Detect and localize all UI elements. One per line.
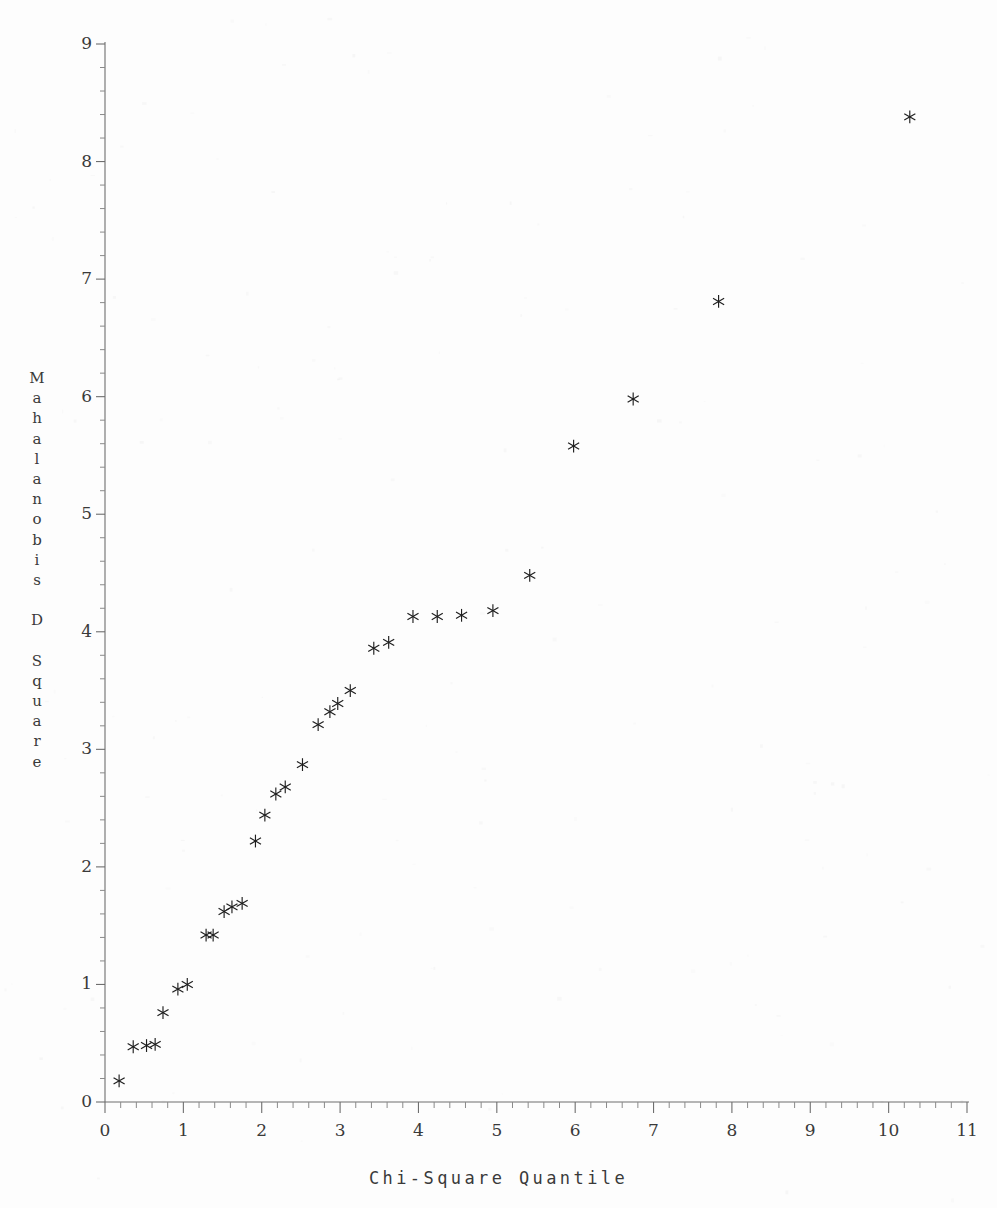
x-tick-label: 2 (247, 1120, 277, 1140)
y-tick-label: 4 (62, 621, 92, 641)
y-axis-title-char: u (24, 691, 50, 711)
y-axis-title-char: n (24, 489, 50, 509)
data-point-marker (219, 905, 230, 918)
data-point-marker (432, 610, 443, 623)
data-point-marker (383, 636, 394, 649)
y-axis-title-char: e (24, 752, 50, 772)
y-axis-title-char: q (24, 671, 50, 691)
y-axis-title-char: l (24, 449, 50, 469)
data-point-marker (259, 809, 270, 822)
data-point-marker (182, 978, 193, 991)
x-tick-label: 5 (482, 1120, 512, 1140)
x-tick-label: 7 (639, 1120, 669, 1140)
y-axis-title-char: a (24, 469, 50, 489)
data-point-marker (114, 1074, 125, 1087)
data-point-marker (487, 604, 498, 617)
data-point-marker (237, 897, 248, 910)
y-tick-label: 0 (62, 1091, 92, 1111)
data-point-marker (332, 697, 343, 710)
y-axis-title-char: h (24, 408, 50, 428)
y-axis-title-char (24, 590, 50, 610)
y-axis-title-char: o (24, 509, 50, 529)
y-axis-title: Mahalanobis D Square (24, 368, 50, 772)
y-tick-label: 8 (62, 151, 92, 171)
y-tick-label: 5 (62, 503, 92, 523)
x-axis-title: Chi-Square Quantile (0, 1168, 997, 1188)
data-point-marker (208, 929, 219, 942)
y-axis-title-char (24, 630, 50, 650)
data-point-marker (456, 609, 467, 622)
data-point-marker (904, 110, 915, 123)
y-tick-label: 9 (62, 33, 92, 53)
data-point-marker (297, 758, 308, 771)
data-point-marker (226, 900, 237, 913)
x-tick-label: 6 (560, 1120, 590, 1140)
y-axis-title-char: D (24, 610, 50, 630)
data-point-marker (407, 610, 418, 623)
y-tick-label: 2 (62, 856, 92, 876)
chart-plot-area: Mahalanobis D Square Chi-Square Quantile… (0, 0, 997, 1208)
data-point-marker (250, 835, 261, 848)
x-tick-label: 10 (874, 1120, 904, 1140)
y-axis-title-char: M (24, 368, 50, 388)
data-point-marker (524, 569, 535, 582)
x-tick-label: 0 (90, 1120, 120, 1140)
y-axis-title-char: b (24, 530, 50, 550)
y-axis-title-char: a (24, 388, 50, 408)
y-axis-title-char: S (24, 651, 50, 671)
y-tick-label: 3 (62, 738, 92, 758)
y-axis-title-char: i (24, 550, 50, 570)
data-point-marker (201, 929, 212, 942)
y-axis-title-char: s (24, 570, 50, 590)
data-point-marker (157, 1006, 168, 1019)
x-tick-label: 11 (952, 1120, 982, 1140)
data-point-marker (368, 642, 379, 655)
data-point-marker (713, 295, 724, 308)
data-point-marker (324, 705, 335, 718)
y-axis-title-char: a (24, 711, 50, 731)
y-tick-label: 1 (62, 973, 92, 993)
y-tick-label: 7 (62, 268, 92, 288)
data-point-marker (345, 684, 356, 697)
data-point-marker (568, 440, 579, 453)
data-point-marker (628, 393, 639, 406)
x-tick-label: 4 (403, 1120, 433, 1140)
data-point-marker (313, 718, 324, 731)
data-point-marker (128, 1040, 139, 1053)
chart-canvas (0, 0, 997, 1208)
x-tick-label: 1 (168, 1120, 198, 1140)
x-tick-label: 8 (717, 1120, 747, 1140)
y-axis-title-char: r (24, 731, 50, 751)
chart-data-points (114, 110, 916, 1087)
x-tick-label: 9 (795, 1120, 825, 1140)
data-point-marker (172, 983, 183, 996)
x-tick-label: 3 (325, 1120, 355, 1140)
y-tick-label: 6 (62, 386, 92, 406)
y-axis-title-char: a (24, 429, 50, 449)
